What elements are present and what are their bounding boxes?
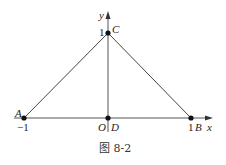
label-C: C [112, 23, 120, 35]
y-axis-arrow-icon [106, 11, 111, 19]
x-tick-neg1: −1 [17, 121, 29, 133]
segment-AC [24, 33, 108, 118]
triangle-diagram: y 1 C A −1 O D 1 B x 图 8-2 [0, 0, 226, 165]
label-A: A [14, 107, 22, 119]
segment-CB [108, 33, 191, 118]
figure-caption: 图 8-2 [99, 142, 131, 155]
point-A [21, 115, 26, 120]
y-tick-1: 1 [99, 26, 105, 38]
label-D: D [110, 121, 119, 133]
x-tick-1: 1 [188, 121, 194, 133]
label-B: B [195, 121, 202, 133]
point-D [105, 115, 110, 120]
y-axis-label: y [98, 9, 104, 21]
point-B [188, 115, 193, 120]
x-axis-label: x [206, 121, 212, 133]
label-O: O [98, 121, 106, 133]
x-axis-arrow-icon [205, 116, 213, 121]
point-C [105, 30, 110, 35]
